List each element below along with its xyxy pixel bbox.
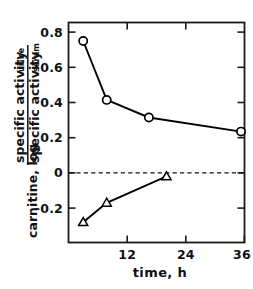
data-point-triangle-3 bbox=[162, 172, 171, 180]
y-axis-title-denominator-subscript: serum bbox=[31, 43, 41, 72]
data-point-circle-2 bbox=[103, 96, 111, 104]
series-triangles bbox=[79, 172, 172, 226]
y-axis-title-group: carnitine, log specific activity urine s… bbox=[12, 43, 42, 238]
y-tick-label-0: 0 bbox=[54, 165, 63, 180]
series-triangles-line bbox=[83, 176, 166, 222]
y-axis-title-numerator-subscript: urine bbox=[16, 47, 26, 72]
y-axis-ticks-right bbox=[238, 32, 245, 208]
x-tick-label-36: 36 bbox=[233, 247, 251, 262]
x-axis-ticks-bottom bbox=[127, 236, 244, 243]
y-axis-ticks-left bbox=[69, 32, 76, 208]
data-point-circle-1 bbox=[79, 37, 87, 45]
data-point-circle-4 bbox=[237, 128, 245, 136]
x-tick-labels: 12 24 36 bbox=[118, 247, 251, 262]
chart-figure: 0.8 0.6 0.4 0.2 0 -0.2 12 24 36 time, h … bbox=[0, 0, 253, 289]
series-circles-line bbox=[83, 41, 241, 132]
y-tick-label-0.2: 0.2 bbox=[40, 130, 63, 145]
y-tick-label-0.6: 0.6 bbox=[40, 60, 63, 75]
y-tick-label-0.8: 0.8 bbox=[40, 25, 63, 40]
x-axis-ticks-top bbox=[127, 23, 186, 30]
plot-frame bbox=[69, 23, 245, 243]
x-tick-label-12: 12 bbox=[118, 247, 136, 262]
axes-frame-rect bbox=[69, 23, 245, 243]
chart-svg: 0.8 0.6 0.4 0.2 0 -0.2 12 24 36 time, h … bbox=[0, 0, 253, 289]
x-axis-title: time, h bbox=[133, 265, 188, 280]
series-circles bbox=[79, 37, 245, 136]
x-tick-label-24: 24 bbox=[177, 247, 195, 262]
y-tick-label-0.4: 0.4 bbox=[40, 95, 63, 110]
data-point-circle-3 bbox=[145, 113, 153, 121]
